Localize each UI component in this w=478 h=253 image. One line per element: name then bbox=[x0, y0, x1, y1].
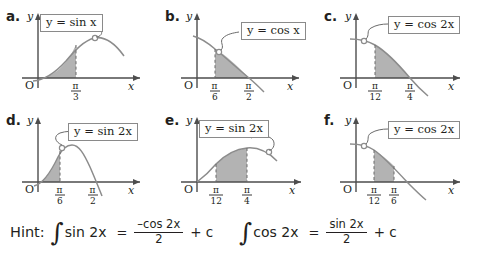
panel-e-function-label: y = sin 2x bbox=[199, 120, 269, 138]
panel-d-plot: O x y π 6 π 2 bbox=[0, 104, 159, 208]
x-axis-label: x bbox=[128, 80, 135, 93]
integral-icon: ∫ bbox=[51, 224, 64, 242]
curve-marker bbox=[361, 38, 366, 43]
equals-sign-1: = bbox=[116, 225, 127, 240]
panel-c: c. O x y π 12 π 4 bbox=[318, 0, 477, 104]
constant-term-2: + c bbox=[374, 224, 397, 240]
integrand-2: cos 2x bbox=[253, 224, 298, 240]
origin-label: O bbox=[184, 79, 193, 92]
tick2-numerator: π bbox=[90, 185, 96, 195]
tick2-denominator: 2 bbox=[246, 92, 252, 102]
panel-a-function-text: y = sin x bbox=[46, 15, 97, 29]
y-axis-arrow bbox=[35, 117, 41, 124]
fraction-1-numerator: –cos 2x bbox=[134, 219, 183, 232]
origin-label: O bbox=[25, 183, 34, 196]
worksheet-figure: a. O x y bbox=[0, 0, 478, 253]
origin-label: O bbox=[343, 183, 352, 196]
hint-label: Hint: bbox=[10, 224, 45, 240]
fraction-1-denominator: 2 bbox=[155, 233, 162, 246]
panel-b: b. O x y π 6 π 2 bbox=[159, 0, 318, 104]
tick-denominator: 6 bbox=[212, 92, 218, 102]
x-axis-label: x bbox=[448, 80, 455, 93]
panel-f-function-label: y = cos 2x bbox=[388, 121, 460, 139]
tick-numerator: π bbox=[213, 185, 219, 195]
y-axis-label: y bbox=[344, 10, 352, 23]
x-axis-label: x bbox=[287, 80, 294, 93]
origin-label: O bbox=[25, 79, 34, 92]
shaded-area bbox=[38, 45, 76, 78]
panel-a: a. O x y bbox=[0, 0, 159, 104]
shaded-area bbox=[38, 151, 60, 182]
equals-sign-2: = bbox=[309, 225, 320, 240]
y-axis-label: y bbox=[344, 114, 352, 127]
tick-denominator: 12 bbox=[370, 92, 381, 102]
panel-f-plot: O x y π 12 π 6 bbox=[318, 104, 477, 208]
tick2-numerator: π bbox=[246, 81, 252, 91]
tick2-denominator: 2 bbox=[90, 196, 96, 206]
panel-d: d. O x y π 6 π 2 bbox=[0, 104, 159, 208]
y-axis-label: y bbox=[26, 10, 34, 23]
fraction-1: –cos 2x 2 bbox=[134, 219, 183, 245]
panel-b-plot: O x y π 6 π 2 bbox=[159, 0, 318, 104]
panel-f: f. O x y π 12 π 6 bbox=[318, 104, 477, 208]
y-axis-label: y bbox=[185, 114, 193, 127]
origin-label: O bbox=[343, 79, 352, 92]
tick-numerator: π bbox=[73, 81, 79, 91]
fraction-2: sin 2x 2 bbox=[326, 219, 366, 245]
tick-denominator: 12 bbox=[211, 196, 222, 206]
y-axis-label: y bbox=[185, 10, 193, 23]
panel-f-function-text: y = cos 2x bbox=[394, 122, 454, 136]
x-axis-label: x bbox=[128, 184, 135, 197]
tick-numerator: π bbox=[372, 81, 378, 91]
y-axis-arrow bbox=[353, 117, 359, 124]
tick2-denominator: 6 bbox=[391, 196, 397, 206]
panel-e: e. O x y π 12 π 4 bbox=[159, 104, 318, 208]
panel-e-function-text: y = sin 2x bbox=[205, 121, 263, 135]
tick-denominator: 3 bbox=[73, 92, 79, 102]
callout-leader bbox=[366, 129, 388, 144]
origin-label: O bbox=[184, 183, 193, 196]
panel-a-function-label: y = sin x bbox=[40, 14, 103, 32]
hint-equation-2: ∫ cos 2x = sin 2x 2 + c bbox=[239, 219, 396, 245]
panel-c-function-label: y = cos 2x bbox=[388, 16, 460, 34]
hint-equation-1: ∫ sin 2x = –cos 2x 2 + c bbox=[51, 219, 214, 245]
curve-marker bbox=[59, 145, 64, 150]
callout-leader bbox=[366, 24, 388, 39]
panel-c-function-text: y = cos 2x bbox=[394, 17, 454, 31]
tick2-numerator: π bbox=[391, 185, 397, 195]
panel-d-function-label: y = sin 2x bbox=[68, 123, 138, 141]
tick-denominator: 12 bbox=[369, 196, 380, 206]
panel-b-function-text: y = cos x bbox=[247, 23, 300, 37]
fraction-2-numerator: sin 2x bbox=[326, 219, 366, 232]
callout-leader bbox=[221, 32, 239, 50]
hint-row: Hint: ∫ sin 2x = –cos 2x 2 + c ∫ cos 2x … bbox=[10, 212, 470, 252]
tick-numerator: π bbox=[57, 185, 63, 195]
integrand-1: sin 2x bbox=[65, 224, 107, 240]
y-axis-arrow bbox=[194, 13, 200, 20]
curve-marker bbox=[216, 49, 221, 54]
constant-term-1: + c bbox=[190, 224, 213, 240]
tick2-numerator: π bbox=[407, 81, 413, 91]
x-axis-label: x bbox=[289, 184, 296, 197]
y-axis-arrow bbox=[353, 13, 359, 20]
y-axis-label: y bbox=[26, 114, 34, 127]
curve-sin-x bbox=[33, 38, 124, 81]
curve-marker bbox=[92, 35, 97, 40]
tick-numerator: π bbox=[371, 185, 377, 195]
panel-b-function-label: y = cos x bbox=[241, 22, 306, 40]
curve-marker bbox=[361, 143, 366, 148]
tick-numerator: π bbox=[212, 81, 218, 91]
x-axis-label: x bbox=[448, 184, 455, 197]
panel-d-function-text: y = sin 2x bbox=[74, 124, 132, 138]
panel-grid: a. O x y bbox=[0, 0, 478, 208]
tick2-denominator: 4 bbox=[407, 92, 413, 102]
tick2-numerator: π bbox=[244, 185, 250, 195]
tick-denominator: 6 bbox=[57, 196, 63, 206]
fraction-2-denominator: 2 bbox=[343, 233, 350, 246]
integral-icon-2: ∫ bbox=[239, 224, 252, 242]
tick2-denominator: 4 bbox=[244, 196, 250, 206]
